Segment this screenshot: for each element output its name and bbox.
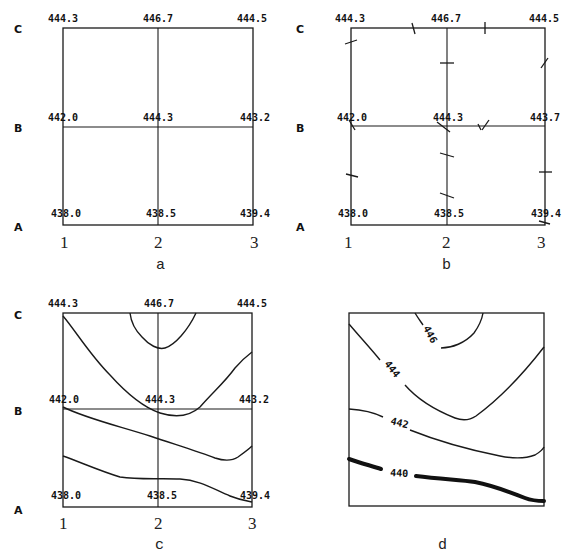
- value-b2: 444.3: [433, 112, 463, 123]
- value-c3: 444.5: [237, 13, 267, 24]
- value-a1: 438.0: [51, 490, 81, 501]
- col-label-3: 3: [537, 233, 546, 252]
- value-a3: 439.4: [240, 208, 270, 219]
- contour-label-442: 442: [390, 415, 410, 430]
- row-label-b: B: [14, 122, 22, 135]
- col-label-2: 2: [442, 233, 451, 252]
- value-a3: 439.4: [531, 208, 561, 219]
- contour-lines: [349, 313, 544, 501]
- row-label-a: A: [14, 504, 23, 517]
- panel-a: C B A 444.3 446.7 444.5 442.0 444.3 443.…: [14, 13, 270, 274]
- col-label-1: 1: [344, 233, 353, 252]
- value-b1: 442.0: [49, 394, 79, 405]
- value-b3: 443.2: [239, 394, 269, 405]
- col-label-3: 3: [248, 514, 257, 533]
- value-c1: 444.3: [335, 13, 365, 24]
- panel-d-frame: [349, 313, 544, 506]
- col-label-1: 1: [59, 514, 68, 533]
- value-b1: 442.0: [48, 112, 78, 123]
- panel-d: 446 444 442 440 d: [349, 313, 544, 554]
- col-label-3: 3: [250, 233, 259, 252]
- contour-label-446: 446: [421, 324, 439, 345]
- value-a1: 438.0: [51, 208, 81, 219]
- value-c1: 444.3: [48, 13, 78, 24]
- value-c1: 444.3: [48, 298, 78, 309]
- value-a2: 438.5: [434, 208, 464, 219]
- row-label-c: C: [296, 23, 304, 36]
- col-label-1: 1: [60, 233, 69, 252]
- value-b2: 444.3: [143, 112, 173, 123]
- panel-c: C B A 444.3 446.7 444.5 442.0 444.3 443.…: [14, 298, 270, 554]
- value-c2: 446.7: [431, 13, 461, 24]
- value-c3: 444.5: [237, 298, 267, 309]
- contour-label-444: 444: [382, 358, 402, 379]
- value-b3: 443.7: [530, 112, 560, 123]
- value-a1: 438.0: [338, 208, 368, 219]
- contour-label-440: 440: [390, 467, 409, 479]
- row-label-c: C: [14, 309, 22, 322]
- panel-label-b: b: [442, 257, 451, 274]
- row-label-a: A: [14, 221, 23, 234]
- panel-label-a: a: [156, 257, 165, 274]
- value-b3: 443.2: [240, 112, 270, 123]
- row-label-c: C: [14, 23, 22, 36]
- value-c2: 446.7: [143, 13, 173, 24]
- row-label-b: B: [14, 405, 22, 418]
- value-a2: 438.5: [147, 490, 177, 501]
- col-label-2: 2: [154, 233, 163, 252]
- value-c3: 444.5: [529, 13, 559, 24]
- panel-b: C B A 444.3 446.7 444.5 442.0 444.3 443.…: [296, 13, 561, 274]
- row-label-a: A: [296, 221, 305, 234]
- value-b1: 442.0: [337, 112, 367, 123]
- col-label-2: 2: [154, 514, 163, 533]
- value-a2: 438.5: [146, 208, 176, 219]
- row-label-b: B: [296, 122, 304, 135]
- contour-crossing-ticks: [345, 22, 552, 224]
- value-b2: 444.3: [145, 394, 175, 405]
- value-a3: 439.4: [240, 490, 270, 501]
- panel-label-d: d: [438, 537, 447, 554]
- panel-label-c: c: [155, 537, 164, 554]
- value-c2: 446.7: [144, 298, 174, 309]
- contour-figure: C B A 444.3 446.7 444.5 442.0 444.3 443.…: [0, 0, 564, 556]
